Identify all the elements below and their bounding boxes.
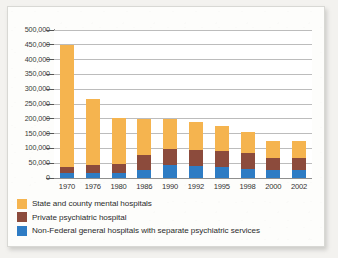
bar-stack xyxy=(241,132,255,178)
bar-stack xyxy=(60,45,74,178)
bar-stack xyxy=(266,141,280,178)
bar-segment xyxy=(215,126,229,151)
bar-stack xyxy=(137,119,151,178)
x-axis-tick-label: 1992 xyxy=(182,182,210,191)
y-axis-tick-mark xyxy=(46,148,54,149)
legend-item: Private psychiatric hospital xyxy=(17,211,307,225)
bar-segment xyxy=(137,119,151,155)
bar-segment xyxy=(112,173,126,178)
x-axis-tick-label: 1998 xyxy=(234,182,262,191)
y-axis-tick-mark xyxy=(46,133,54,134)
x-axis-tick-label: 1980 xyxy=(105,182,133,191)
y-axis-tick-mark xyxy=(46,44,54,45)
gridline xyxy=(54,44,312,45)
chart-legend: State and county mental hospitalsPrivate… xyxy=(17,197,307,238)
y-axis-tick-label: 250,000 xyxy=(2,99,50,108)
legend-color-swatch xyxy=(17,199,27,209)
y-axis-tick-mark xyxy=(46,59,54,60)
figure-container: 050,000100,000150,000200,000250,000300,0… xyxy=(0,0,338,258)
bar-segment xyxy=(266,170,280,178)
bar-segment xyxy=(189,122,203,150)
gridline xyxy=(54,89,312,90)
y-axis-tick-mark xyxy=(46,74,54,75)
legend-color-swatch xyxy=(17,212,27,222)
bar-segment xyxy=(163,165,177,178)
bar-segment xyxy=(163,149,177,165)
legend-item-label: Private psychiatric hospital xyxy=(32,213,126,222)
y-axis-tick-mark xyxy=(46,163,54,164)
x-axis-tick-label: 1995 xyxy=(208,182,236,191)
bar-segment xyxy=(137,155,151,170)
y-axis-tick-label: 500,000 xyxy=(2,25,50,34)
y-axis-tick-label: 100,000 xyxy=(2,143,50,152)
bar-segment xyxy=(215,167,229,178)
bar-stack xyxy=(189,122,203,178)
legend-item: Non-Federal general hospitals with separ… xyxy=(17,224,307,238)
bar-segment xyxy=(292,158,306,170)
x-axis-tick-label: 1970 xyxy=(53,182,81,191)
bar-segment xyxy=(137,170,151,178)
bar-segment xyxy=(112,118,126,164)
y-axis-tick-mark xyxy=(46,89,54,90)
gridline xyxy=(54,30,312,31)
x-axis-tick-label: 2002 xyxy=(285,182,313,191)
y-axis-tick-label: 350,000 xyxy=(2,69,50,78)
bar-segment xyxy=(86,165,100,173)
y-axis-tick-label: 0 xyxy=(2,173,50,182)
y-axis-tick-label: 200,000 xyxy=(2,114,50,123)
legend-item: State and county mental hospitals xyxy=(17,197,307,211)
bar-segment xyxy=(112,164,126,172)
bar-segment xyxy=(86,99,100,165)
bar-stack xyxy=(292,141,306,178)
x-axis-tick-label: 2000 xyxy=(259,182,287,191)
bar-segment xyxy=(241,153,255,169)
y-axis-tick-label: 400,000 xyxy=(2,55,50,64)
x-axis-tick-label: 1976 xyxy=(79,182,107,191)
y-axis-tick-label: 50,000 xyxy=(2,158,50,167)
bar-segment xyxy=(292,141,306,158)
gridline xyxy=(54,59,312,60)
y-axis-tick-mark xyxy=(46,118,54,119)
y-axis-tick-label: 300,000 xyxy=(2,84,50,93)
bar-segment xyxy=(266,141,280,158)
legend-item-label: State and county mental hospitals xyxy=(32,199,152,208)
y-axis-tick-label: 450,000 xyxy=(2,40,50,49)
bar-stack xyxy=(86,99,100,178)
bar-stack xyxy=(112,118,126,178)
bar-segment xyxy=(60,45,74,167)
bar-segment xyxy=(241,132,255,153)
gridline xyxy=(54,74,312,75)
bar-segment xyxy=(292,170,306,178)
x-axis-tick-label: 1990 xyxy=(156,182,184,191)
bar-segment xyxy=(86,173,100,178)
bar-segment xyxy=(189,166,203,178)
legend-item-label: Non-Federal general hospitals with separ… xyxy=(32,226,260,235)
bar-stack xyxy=(163,119,177,178)
bar-stack xyxy=(215,126,229,178)
plot-area: 1970197619801986199019921995199820002002 xyxy=(54,30,312,178)
bar-segment xyxy=(215,151,229,167)
x-axis-tick-label: 1986 xyxy=(130,182,158,191)
y-axis-tick-mark xyxy=(46,30,54,31)
bar-segment xyxy=(266,158,280,170)
bar-segment xyxy=(60,173,74,178)
bar-segment xyxy=(189,150,203,166)
legend-color-swatch xyxy=(17,226,27,236)
y-axis-tick-mark xyxy=(46,178,54,179)
y-axis-tick-mark xyxy=(46,104,54,105)
bar-segment xyxy=(241,169,255,178)
bar-segment xyxy=(163,119,177,149)
y-axis-tick-label: 150,000 xyxy=(2,129,50,138)
